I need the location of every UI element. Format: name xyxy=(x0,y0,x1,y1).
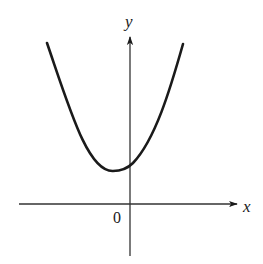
x-axis-label: x xyxy=(242,197,251,216)
origin-label: 0 xyxy=(113,209,121,226)
parabola-curve xyxy=(47,43,183,171)
y-axis-label: y xyxy=(123,12,133,31)
graph-canvas: y x 0 xyxy=(0,0,263,264)
